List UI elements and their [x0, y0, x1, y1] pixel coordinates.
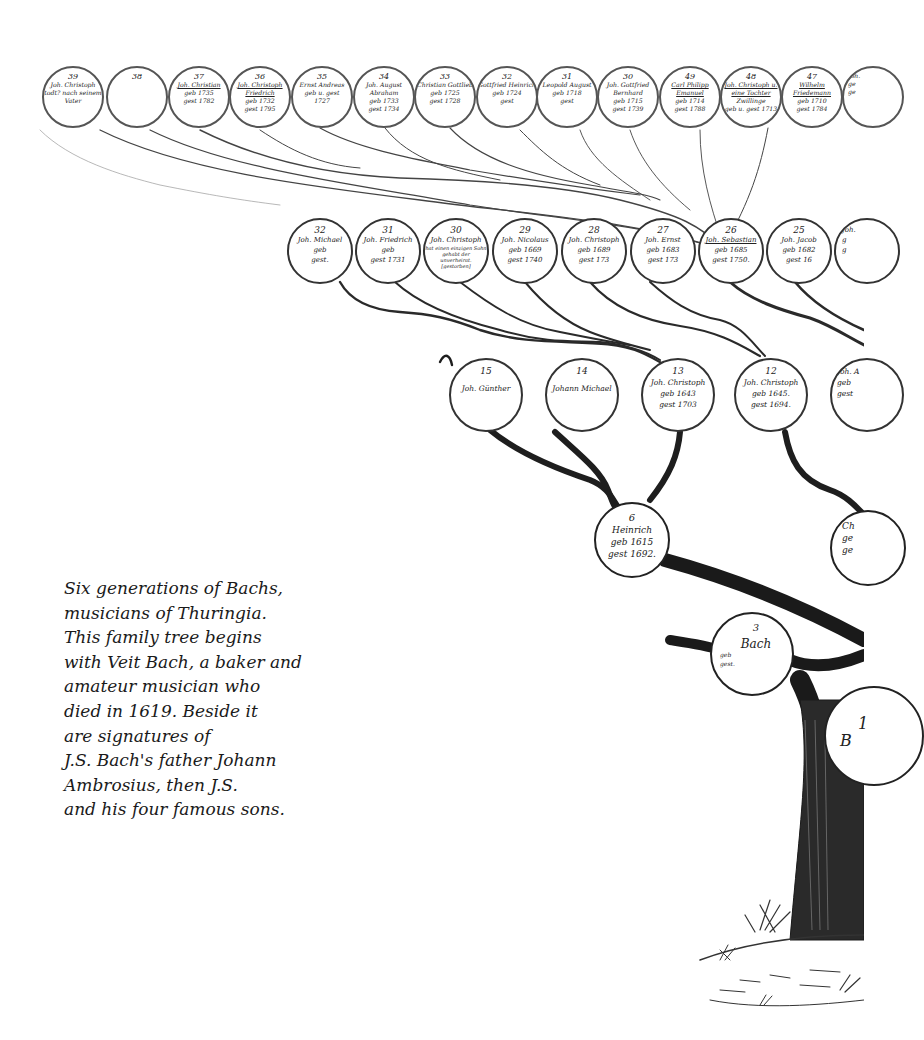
node-number: 29 — [494, 225, 556, 235]
node-name: Heinrich — [596, 524, 668, 536]
node-name: Joh. Jacob — [768, 235, 830, 245]
node-name: Joh. Sebastian — [700, 235, 762, 245]
person-node: 31Leopold Augustgeb 1718gest — [536, 66, 598, 128]
node-number: 27 — [632, 225, 694, 235]
node-name: Joh. A — [837, 366, 902, 377]
node-birth: geb — [357, 245, 419, 255]
node-death: gest 1795 — [231, 105, 289, 113]
node-birth: geb 1669 — [494, 245, 556, 255]
node-death: ge — [848, 88, 902, 96]
person-node: 13Joh. Christophgeb 1643gest 1703 — [641, 358, 715, 432]
person-node-heinrich: 6Heinrichgeb 1615gest 1692. — [594, 502, 670, 578]
node-death: gest. — [289, 255, 351, 265]
node-death: gest 16 — [768, 255, 830, 265]
node-death: gest 173 — [563, 255, 625, 265]
node-name: Ernst Andreas — [293, 81, 351, 89]
caption-line: with Veit Bach, a baker and — [64, 650, 354, 675]
node-number: 32 — [478, 72, 536, 81]
node-name: Joh. Friedrich — [357, 235, 419, 245]
caption-line: amateur musician who — [64, 674, 354, 699]
person-node: 30Joh. Gottfried Bernhardgeb 1715gest 17… — [597, 66, 659, 128]
node-number: 34 — [355, 72, 413, 81]
node-name: Joh. Günther — [451, 383, 521, 394]
node-number: 47 — [783, 72, 841, 81]
node-name: B — [840, 730, 922, 752]
node-name: Bach — [720, 638, 792, 650]
node-death: gest 1703 — [643, 399, 713, 410]
caption: Six generations of Bachs, musicians of T… — [64, 576, 354, 822]
node-birth: geb 1735 — [170, 89, 228, 97]
person-node: 47Wilhelm Friedemanngeb 1710gest 1784 — [781, 66, 843, 128]
node-death: gest 1782 — [170, 97, 228, 105]
node-name: Joh. Christoph u. eine Tochter — [722, 81, 780, 97]
person-node: 36Joh. Christoph Friedrichgeb 1732gest 1… — [229, 66, 291, 128]
node-death: 1727 — [293, 97, 351, 105]
node-number: 38 — [108, 72, 166, 81]
node-birth: geb 1718 — [538, 89, 596, 97]
person-node: 35Ernst Andreasgeb u. gest1727 — [291, 66, 353, 128]
node-death: gest 1692. — [596, 548, 668, 560]
node-name: Joh. — [848, 72, 902, 80]
node-birth: ge — [842, 532, 904, 544]
node-name: Leopold August — [538, 81, 596, 89]
node-birth: geb 1733 — [355, 97, 413, 105]
node-note: hat einen einzigen Sohn gehabt der — [425, 245, 487, 257]
node-birth: geb u. gest — [293, 89, 351, 97]
person-node: 39Joh. Christophtodt? nach seinemVater — [42, 66, 104, 128]
node-name: Christian Gottlieb — [416, 81, 474, 89]
person-node: 14Johann Michael — [545, 358, 619, 432]
node-number: 30 — [425, 225, 487, 235]
person-node: 31Joh. Friedrichgebgest 1731 — [355, 218, 421, 284]
node-birth: geb 1643 — [643, 388, 713, 399]
node-death: gest 1739 — [599, 105, 657, 113]
node-name: Joh. — [842, 225, 898, 235]
node-birth: g — [842, 235, 898, 245]
person-node: 33Christian Gottliebgeb 1725gest 1728 — [414, 66, 476, 128]
node-number: 12 — [736, 366, 806, 377]
node-number: 32 — [289, 225, 351, 235]
node-death: gest 1740 — [494, 255, 556, 265]
node-number: 36 — [231, 72, 289, 81]
node-number: 31 — [538, 72, 596, 81]
person-node: 12Joh. Christophgeb 1645.gest 1694. — [734, 358, 808, 432]
node-number: 39 — [44, 72, 102, 81]
node-birth: geb — [837, 377, 902, 388]
person-node-partial: Joh.gege — [842, 66, 904, 128]
node-name: Joh. Gottfried Bernhard — [599, 81, 657, 97]
node-death: geb u. gest 1713 — [722, 105, 780, 113]
node-name: Joh. Christian — [170, 81, 228, 89]
node-name: Joh. Christoph — [643, 377, 713, 388]
caption-line: J.S. Bach's father Johann — [64, 748, 354, 773]
node-death: ge — [842, 544, 904, 556]
node-number: 14 — [547, 366, 617, 377]
node-death: Vater — [44, 97, 102, 105]
node-death: gest — [478, 97, 536, 105]
node-name: Carl Philipp Emanuel — [661, 81, 719, 97]
node-birth: geb 1724 — [478, 89, 536, 97]
node-number: 35 — [293, 72, 351, 81]
node-death: gest 1784 — [783, 105, 841, 113]
node-number: 3 — [720, 622, 792, 634]
node-name: Joh. August Abraham — [355, 81, 413, 97]
person-node: 27Joh. Ernstgeb 1683gest 173 — [630, 218, 696, 284]
person-node: 32Joh. Michaelgebgest. — [287, 218, 353, 284]
person-node: 30Joh. Christophhat einen einzigen Sohn … — [423, 218, 489, 284]
node-death: gest — [538, 97, 596, 105]
node-number: 6 — [596, 512, 668, 524]
node-name: Joh. Michael — [289, 235, 351, 245]
node-name: Joh. Nicolaus — [494, 235, 556, 245]
node-birth: geb 1615 — [596, 536, 668, 548]
node-number: 30 — [599, 72, 657, 81]
node-number: 37 — [170, 72, 228, 81]
node-name: Joh. Christoph — [425, 235, 487, 245]
caption-line: died in 1619. Beside it — [64, 699, 354, 724]
node-name: Johann Michael — [547, 383, 617, 394]
node-death: gest 1694. — [736, 399, 806, 410]
person-node-partial: Joh. Agebgest — [830, 358, 904, 432]
node-birth: Zwillinge — [722, 97, 780, 105]
node-birth: geb 1710 — [783, 97, 841, 105]
person-node-partial: Joh.gg — [834, 218, 900, 284]
node-death: gest 1788 — [661, 105, 719, 113]
node-birth: geb 1725 — [416, 89, 474, 97]
